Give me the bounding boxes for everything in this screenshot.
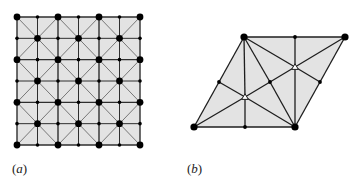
large-node	[137, 56, 144, 63]
small-node	[15, 122, 19, 126]
panel-b-label: (b)	[187, 161, 202, 177]
small-node	[15, 37, 19, 41]
paren-close: )	[23, 161, 27, 176]
small-node	[118, 58, 122, 62]
small-node	[243, 125, 247, 129]
small-node	[36, 15, 40, 19]
figure-canvas	[0, 0, 361, 188]
small-node	[118, 143, 122, 147]
large-node	[75, 78, 82, 85]
large-node	[34, 35, 41, 42]
small-node	[118, 15, 122, 19]
small-node	[56, 79, 60, 83]
small-node	[56, 37, 60, 41]
large-node	[116, 78, 123, 85]
large-node	[137, 99, 144, 106]
panel-b-rhombus-mesh	[190, 33, 348, 130]
large-node	[14, 14, 21, 21]
small-node	[138, 37, 142, 41]
large-node	[14, 142, 21, 149]
large-node	[55, 56, 62, 63]
small-node	[36, 101, 40, 105]
large-node	[14, 99, 21, 106]
large-node	[137, 142, 144, 149]
small-node	[293, 35, 297, 39]
small-node	[138, 79, 142, 83]
small-node	[97, 79, 101, 83]
small-node	[138, 122, 142, 126]
large-node	[291, 123, 298, 130]
small-node	[77, 101, 81, 105]
small-node	[77, 143, 81, 147]
small-node	[318, 80, 322, 84]
large-node	[75, 35, 82, 42]
large-node	[96, 56, 103, 63]
small-node	[77, 15, 81, 19]
large-node	[190, 123, 197, 130]
large-node	[116, 120, 123, 127]
small-node	[15, 79, 19, 83]
small-node	[118, 101, 122, 105]
small-node	[268, 80, 272, 84]
large-node	[96, 99, 103, 106]
small-node	[217, 80, 221, 84]
large-node	[341, 33, 348, 40]
small-node	[56, 122, 60, 126]
large-node	[240, 33, 247, 40]
large-node	[96, 14, 103, 21]
paren-close: )	[198, 161, 202, 176]
large-node	[75, 120, 82, 127]
large-node	[34, 120, 41, 127]
panel-a-label: (a)	[12, 161, 27, 177]
large-node	[14, 56, 21, 63]
small-node	[36, 58, 40, 62]
large-node	[55, 142, 62, 149]
large-node	[55, 99, 62, 106]
small-node	[97, 37, 101, 41]
large-node	[137, 14, 144, 21]
large-node	[116, 35, 123, 42]
small-node	[77, 58, 81, 62]
large-node	[96, 142, 103, 149]
small-node	[97, 122, 101, 126]
large-node	[34, 78, 41, 85]
panel-a-square-grid	[14, 14, 144, 149]
small-node	[36, 143, 40, 147]
large-node	[55, 14, 62, 21]
